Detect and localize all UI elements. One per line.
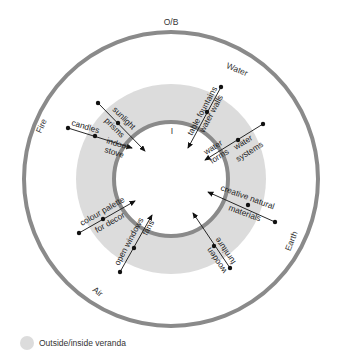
svg-text:candles: candles bbox=[70, 117, 100, 135]
element-earth: Earth bbox=[283, 229, 300, 252]
legend: Outside/inside veranda bbox=[20, 336, 126, 350]
inner-label: I bbox=[171, 126, 173, 136]
inner-ring bbox=[114, 122, 228, 236]
outer-label: O/B bbox=[164, 17, 179, 27]
legend-label: Outside/inside veranda bbox=[39, 338, 126, 348]
legend-swatch-icon bbox=[20, 336, 34, 350]
elements-diagram: O/B I Water Fire Earth Air sunlight pris… bbox=[0, 0, 342, 362]
element-air: Air bbox=[91, 284, 105, 298]
element-water: Water bbox=[225, 60, 250, 78]
